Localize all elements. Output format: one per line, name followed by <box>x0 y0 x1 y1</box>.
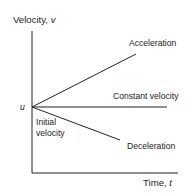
y-axis-label: Velocity, v <box>13 14 57 25</box>
deceleration-label: Deceleration <box>127 141 175 151</box>
x-axis-label: Time, t <box>143 177 172 188</box>
initial-velocity-caption-line1: Initial <box>36 117 56 127</box>
velocity-time-diagram: Velocity, v Time, t u Initial velocity A… <box>0 0 191 194</box>
constant-velocity-label: Constant velocity <box>113 91 179 101</box>
initial-velocity-caption-line2: velocity <box>36 128 65 138</box>
origin-label-u: u <box>20 102 25 112</box>
acceleration-label: Acceleration <box>129 38 177 48</box>
